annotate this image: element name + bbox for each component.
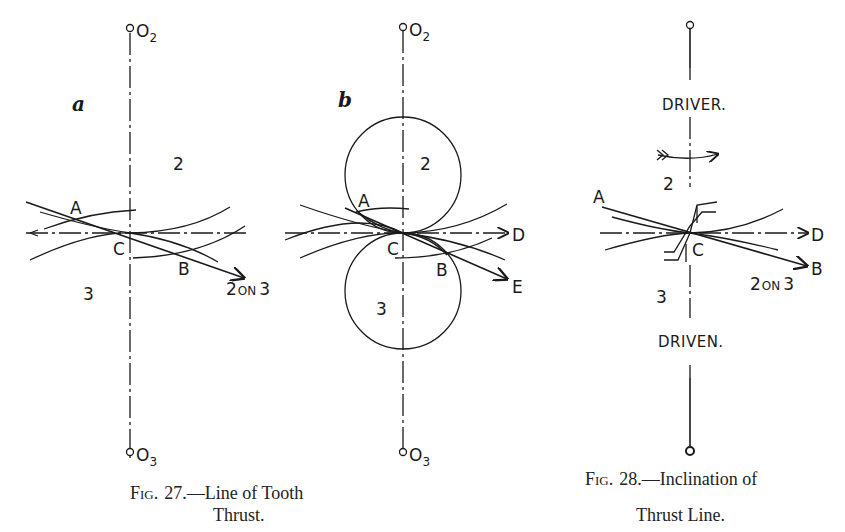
thrust-label-2-on-3: 2ON3: [750, 274, 794, 294]
region-label-3: 3: [376, 299, 387, 319]
tooth-arc-lower: [133, 226, 245, 258]
panel-label-a: a: [72, 92, 85, 116]
label-o3: O3: [409, 445, 430, 469]
thrust-label-2-on-3: 2ON3: [226, 279, 270, 299]
point-b: B: [811, 259, 823, 279]
point-b: B: [178, 259, 190, 279]
region-label-2: 2: [420, 154, 431, 174]
center-o3-icon: [127, 449, 134, 456]
label-o2: O2: [409, 20, 430, 44]
center-o2-icon: [400, 24, 407, 31]
figure-27-panel-b: O2 O3 b 2 3 A C B D E: [285, 20, 525, 469]
tooth-arc-lower: [395, 238, 492, 258]
label-o2: O2: [136, 21, 157, 45]
center-o3-icon: [400, 449, 407, 456]
point-c: C: [387, 239, 399, 259]
point-e: E: [512, 277, 523, 297]
caption-28-line-2: Thrust Line.: [636, 505, 725, 525]
point-b: B: [436, 260, 448, 280]
figure-28: DRIVER. 2 A C D B 2ON3 3 DRIVEN.: [593, 22, 824, 456]
region-label-3: 3: [656, 287, 667, 307]
center-o2-icon: [127, 25, 134, 32]
tooth-profile-1: [40, 212, 218, 262]
caption-28-line-1: Fig.28.—Inclination of: [585, 469, 757, 489]
caption-27-line-2: Thrust.: [213, 505, 265, 525]
thrust-line: [602, 207, 807, 266]
label-driven: DRIVEN.: [658, 333, 724, 351]
point-c: C: [113, 239, 125, 259]
tooth-profile-2: [285, 223, 403, 240]
point-c: C: [692, 240, 704, 260]
region-label-2: 2: [173, 154, 184, 174]
point-a: A: [70, 198, 82, 218]
center-top-icon: [687, 22, 694, 29]
label-driver: DRIVER.: [662, 96, 726, 114]
label-o3: O3: [136, 445, 157, 469]
point-a: A: [593, 187, 605, 207]
panel-label-b: b: [338, 88, 352, 112]
point-d: D: [512, 225, 525, 245]
thrust-line: [26, 202, 244, 278]
caption-27-line-1: Fig.27.—Line of Tooth: [130, 483, 303, 503]
figure-27-caption: Fig.27.—Line of Tooth Thrust.: [130, 483, 303, 525]
center-bottom-icon: [686, 447, 694, 455]
figure-28-caption: Fig.28.—Inclination of Thrust Line.: [585, 469, 757, 525]
figure-27-panel-a: O2 O3 a 2 3 A C B 2ON3: [26, 21, 270, 469]
gear-tooth-thrust-diagrams: O2 O3 a 2 3 A C B 2ON3 O2 O3 b 2 3: [0, 0, 845, 532]
region-label-3: 3: [83, 284, 94, 304]
point-d: D: [811, 225, 824, 245]
region-label-2: 2: [663, 174, 674, 194]
point-a: A: [358, 191, 370, 211]
